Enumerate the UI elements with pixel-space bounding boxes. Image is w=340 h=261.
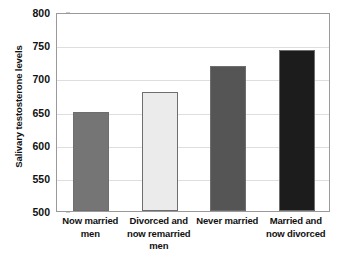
x-axis-label-line: men [125,240,194,253]
x-axis-label-line: Never married [193,215,262,228]
x-axis-label-line: Now married [56,215,125,228]
y-axis-tick-labels: 500550600650700750800 [14,0,50,261]
bar [142,92,178,211]
bar-chart-figure: Salivary testosterone levels 50055060065… [0,0,340,261]
x-axis-label: Divorced andnow remarriedmen [125,215,194,253]
x-axis-label: Married andnow divorced [262,215,331,240]
y-tick-label: 800 [14,7,50,19]
x-axis-label-line: Divorced and [125,215,194,228]
x-axis-category-labels: Now marriedmenDivorced andnow remarriedm… [56,215,330,261]
bars-group [57,14,329,211]
y-tick-label: 600 [14,140,50,152]
y-tick-label: 750 [14,40,50,52]
x-axis-label-line: men [56,228,125,241]
bar [73,112,109,212]
y-tick-label: 550 [14,173,50,185]
y-tick-label: 500 [14,206,50,218]
plot-area [56,13,330,212]
x-axis-label-line: now divorced [262,228,331,241]
x-axis-label: Now marriedmen [56,215,125,240]
y-tick-label: 700 [14,73,50,85]
bar [210,66,246,211]
bar [279,50,315,211]
y-tick-label: 650 [14,107,50,119]
x-axis-label-line: now remarried [125,228,194,241]
x-axis-label-line: Married and [262,215,331,228]
x-axis-label: Never married [193,215,262,228]
